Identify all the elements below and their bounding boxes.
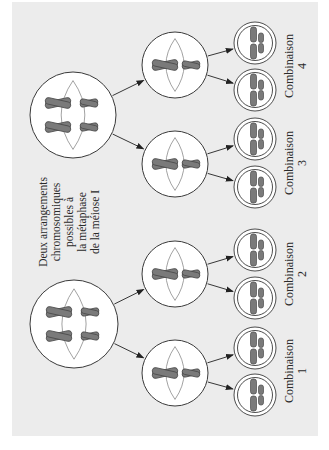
gamete-cell (234, 22, 276, 64)
combination-word: Combinaison (282, 242, 296, 306)
parent-cell-arrangement-a (30, 72, 116, 158)
daughter-cell (142, 32, 208, 98)
combination-number: 1 (295, 368, 309, 374)
gamete-cell (234, 374, 276, 416)
gamete-cell (234, 327, 276, 369)
combination-word: Combinaison (282, 131, 296, 195)
parent-cell-arrangement-b (30, 280, 118, 368)
daughter-cell (142, 340, 208, 406)
gamete-cell (234, 166, 276, 208)
gamete-cell (234, 277, 276, 319)
meiosis-diagram: Combinaison4Combinaison3Combinaison2Comb… (0, 0, 329, 450)
daughter-cell (142, 241, 208, 307)
caption-line-3: possibles à (63, 197, 76, 247)
diagram-canvas: Combinaison4Combinaison3Combinaison2Comb… (0, 0, 329, 450)
caption-line-1: Deux arrangements (37, 177, 50, 267)
combination-word: Combinaison (282, 339, 296, 403)
gamete-cell (234, 118, 276, 160)
caption-line-2: chromosomiques (50, 182, 63, 261)
combination-number: 2 (295, 271, 309, 277)
combination-number: 4 (295, 63, 309, 69)
caption-line-4: la métaphase (76, 192, 89, 252)
caption-line-5: de la méiose I (89, 190, 101, 254)
gamete-cell (234, 229, 276, 271)
combination-word: Combinaison (282, 34, 296, 98)
gamete-cell (234, 69, 276, 111)
combination-number: 3 (295, 160, 309, 166)
daughter-cell (142, 131, 208, 197)
